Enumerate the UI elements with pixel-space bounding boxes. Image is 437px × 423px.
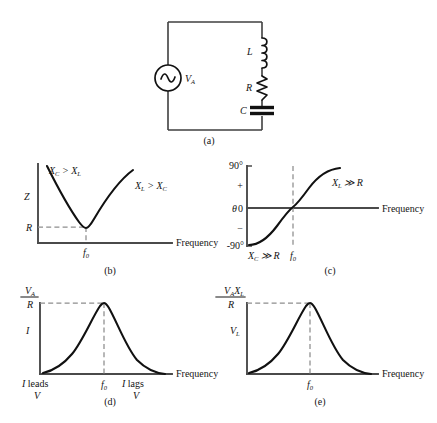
panel-c-y-tick-90: 90°	[229, 160, 243, 171]
panel-c-x-tick-f0: f0	[290, 250, 297, 262]
panel-d-x-tick-f0: f0	[101, 379, 108, 391]
panel-b-annotation-right: XL > XC	[134, 180, 168, 192]
panel-d-note-left-line1: I leads	[21, 378, 48, 389]
panel-b-y-tick-r: R	[25, 222, 32, 233]
panel-c-x-label: Frequency	[382, 203, 424, 214]
figure-rlc-resonance: VA L R C (a) Z R f0 Frequency XC > XL XL…	[0, 0, 437, 423]
panel-c-y-label: θ	[232, 203, 237, 214]
panel-e-x-tick-f0: f0	[307, 379, 314, 391]
panel-c-caption: (c)	[324, 265, 335, 277]
panel-b-x-tick-f0: f0	[83, 247, 90, 259]
panel-e-peak-denominator: R	[227, 299, 234, 310]
panel-c-phase-chart: θ 90° + 0 − -90° Frequency f0 XL ≫ R XC …	[227, 160, 425, 277]
panel-b-caption: (b)	[104, 265, 116, 277]
panel-e-peak-numerator: VAXL	[224, 285, 244, 297]
panel-d-note-left-line2: V	[34, 390, 42, 401]
panel-b-annotation-left: XC > XL	[48, 165, 81, 177]
resistor-label: R	[245, 82, 252, 93]
panel-d-peak-denominator: R	[26, 299, 33, 310]
panel-d-note-right-line2: V	[133, 390, 141, 401]
panel-b-y-label: Z	[24, 191, 30, 202]
panel-a-caption: (a)	[203, 135, 214, 147]
source-label: VA	[185, 73, 195, 85]
panel-c-annotation-top: XL ≫ R	[331, 177, 363, 189]
panel-e-inductor-voltage-chart: VL VAXL R Frequency f0 (e)	[216, 285, 424, 408]
panel-d-caption: (d)	[104, 396, 116, 408]
panel-c-y-tick-plus: +	[237, 180, 243, 191]
inductor-icon	[262, 38, 267, 68]
panel-d-y-label: I	[25, 325, 30, 336]
panel-e-y-label: VL	[230, 325, 240, 337]
panel-c-y-tick-minus: −	[237, 223, 243, 234]
resistor-icon	[257, 76, 267, 100]
panel-c-y-tick-neg90: -90°	[227, 240, 244, 251]
panel-b-x-label: Frequency	[176, 237, 218, 248]
panel-a-circuit: VA L R C (a)	[155, 22, 274, 147]
panel-d-current-chart: I VA R Frequency f0 I leads V I lags V (…	[21, 285, 218, 408]
capacitor-label: C	[240, 105, 247, 116]
panel-c-curve	[249, 168, 340, 245]
panel-d-peak-numerator: VA	[25, 285, 35, 297]
ac-source-sine-icon	[161, 74, 175, 82]
panel-d-x-label: Frequency	[176, 368, 218, 379]
panel-e-caption: (e)	[314, 396, 325, 408]
panel-e-x-label: Frequency	[382, 368, 424, 379]
panel-c-annotation-bottom: XC ≫ R	[247, 250, 280, 262]
panel-d-note-right-line1: I lags	[121, 378, 144, 389]
panel-c-y-tick-zero: 0	[238, 203, 243, 214]
panel-b-impedance-chart: Z R f0 Frequency XC > XL XL > XC (b)	[24, 164, 218, 277]
inductor-label: L	[246, 46, 253, 57]
